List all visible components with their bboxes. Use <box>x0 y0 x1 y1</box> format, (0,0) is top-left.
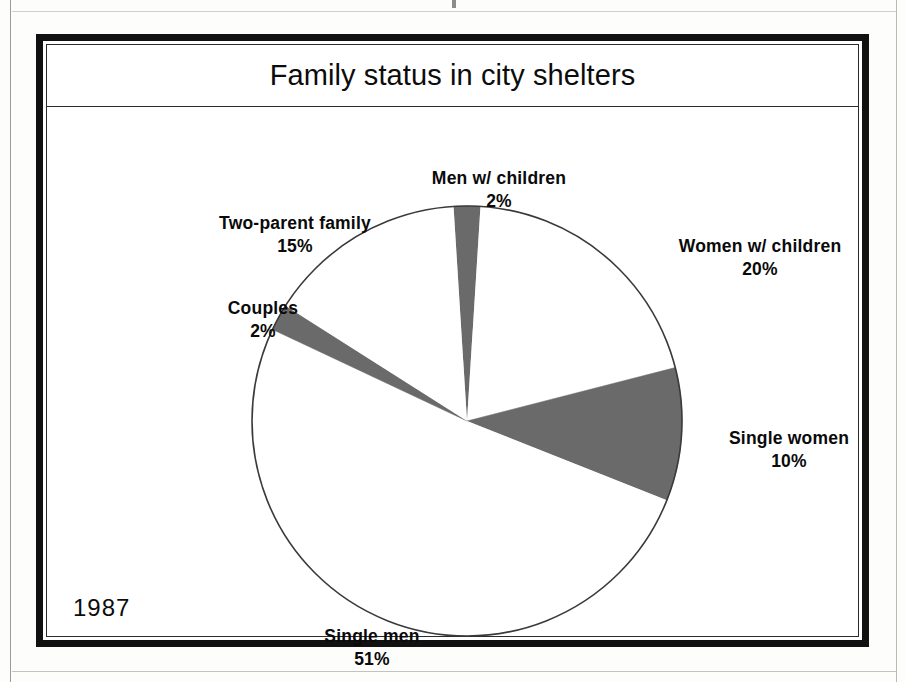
scan-artifact-speck <box>452 0 456 8</box>
pie-chart-plot-area: Men w/ children2%Women w/ children20%Sin… <box>47 107 858 636</box>
pie-slice-label-value: 20% <box>679 258 842 281</box>
page-title: Family status in city shelters <box>270 59 636 92</box>
pie-slice-label: Single men51% <box>324 625 419 671</box>
pie-slice-label-name: Men w/ children <box>432 168 566 188</box>
year-stamp: 1987 <box>73 594 130 622</box>
pie-slice-label: Couples2% <box>228 297 298 343</box>
pie-slice-label: Men w/ children2% <box>432 167 566 213</box>
page-edge-top <box>12 11 896 12</box>
pie-slice-label-value: 51% <box>324 648 419 671</box>
page-edge-left <box>10 0 11 682</box>
pie-slice-group <box>252 206 682 636</box>
pie-slice-label: Women w/ children20% <box>679 235 842 281</box>
pie-slice-label-value: 2% <box>432 190 566 213</box>
pie-slice-label-name: Women w/ children <box>679 236 842 256</box>
page-edge-right <box>896 0 897 682</box>
chart-frame-inner-border: Family status in city shelters Men w/ ch… <box>46 44 859 637</box>
chart-frame: Family status in city shelters Men w/ ch… <box>36 34 869 647</box>
page-edge-bottom <box>12 671 896 672</box>
pie-slice-label-value: 10% <box>729 450 849 473</box>
pie-slice-label-name: Single men <box>324 626 419 646</box>
pie-slice-label-value: 2% <box>228 320 298 343</box>
pie-slice-label-value: 15% <box>219 235 371 258</box>
pie-slice-label: Single women10% <box>729 427 849 473</box>
pie-slice-label: Two-parent family15% <box>219 212 371 258</box>
pie-slice-label-name: Two-parent family <box>219 213 371 233</box>
pie-slice-label-name: Couples <box>228 298 298 318</box>
pie-slice-label-name: Single women <box>729 428 849 448</box>
chart-title-band: Family status in city shelters <box>47 45 858 107</box>
